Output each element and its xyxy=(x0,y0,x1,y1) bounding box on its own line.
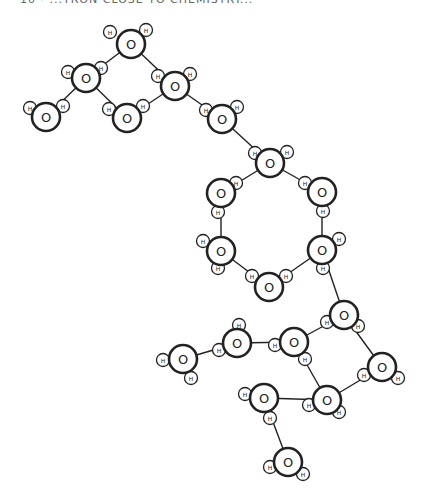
oxygen-label: O xyxy=(126,37,136,52)
oxygen-label: O xyxy=(178,352,188,367)
hydrogen-label: H xyxy=(321,265,326,272)
hydrogen-label: H xyxy=(268,415,273,422)
hydrogen-label: H xyxy=(250,273,255,280)
hydrogen-label: H xyxy=(273,342,278,349)
hydrogen-label: H xyxy=(234,180,239,187)
oxygen-label: O xyxy=(339,308,349,323)
oxygen-label: O xyxy=(322,393,332,408)
oxygen-label: O xyxy=(41,110,51,125)
hydrogen-label: H xyxy=(301,471,306,478)
water-molecule: HHO xyxy=(62,62,108,93)
hydrogen-label: H xyxy=(28,105,33,112)
water-molecule-network-diagram: HHOHHOHHOHHOHHOHHOHHOHHOHHOHHOHHOHHOHHOH… xyxy=(0,0,422,504)
hydrogen-label: H xyxy=(325,319,330,326)
oxygen-label: O xyxy=(217,112,227,127)
hydrogen-label: H xyxy=(188,71,193,78)
hydrogen-label: H xyxy=(66,69,71,76)
water-molecule: HHO xyxy=(152,68,197,101)
oxygen-label: O xyxy=(317,243,327,258)
hydrogen-label: H xyxy=(243,391,248,398)
oxygen-label: O xyxy=(283,455,293,470)
water-molecule: HHO xyxy=(303,386,346,419)
oxygen-label: O xyxy=(170,79,180,94)
water-molecule: HHO xyxy=(24,100,70,132)
hydrogen-label: H xyxy=(156,73,161,80)
hydrogen-label: H xyxy=(253,150,258,157)
hydrogen-label: H xyxy=(307,402,312,409)
oxygen-label: O xyxy=(232,336,242,351)
hydrogen-label: H xyxy=(141,103,146,110)
hydrogen-label: H xyxy=(204,107,209,114)
hydrogen-label: H xyxy=(303,356,308,363)
hydrogen-label: H xyxy=(237,322,242,329)
water-molecule: HHO xyxy=(299,177,337,218)
hydrogen-label: H xyxy=(144,27,149,34)
water-molecule: HHO xyxy=(104,24,153,59)
hydrogen-label: H xyxy=(61,103,66,110)
hydrogen-label: H xyxy=(396,375,401,382)
oxygen-label: O xyxy=(377,360,387,375)
oxygen-label: O xyxy=(216,186,226,201)
hydrogen-label: H xyxy=(108,29,113,36)
water-molecule: HHO xyxy=(358,353,405,385)
water-molecule: HHO xyxy=(321,301,365,333)
oxygen-label: O xyxy=(216,244,226,259)
water-molecule: HHO xyxy=(207,177,243,219)
water-molecule: HHO xyxy=(200,101,244,134)
water-molecule: HHO xyxy=(103,100,150,133)
hydrogen-label: H xyxy=(189,375,194,382)
hydrogen-label: H xyxy=(235,104,240,111)
hydrogen-label: H xyxy=(217,347,222,354)
water-molecule: HHO xyxy=(308,233,346,275)
water-molecule: HHO xyxy=(246,270,293,302)
water-molecule: HHO xyxy=(269,328,312,366)
oxygen-label: O xyxy=(264,280,274,295)
hydrogen-label: H xyxy=(268,464,273,471)
oxygen-label: O xyxy=(259,391,269,406)
oxygen-label: O xyxy=(265,156,275,171)
hydrogen-label: H xyxy=(107,106,112,113)
hydrogen-label: H xyxy=(99,65,104,72)
oxygen-label: O xyxy=(122,111,132,126)
oxygen-label: O xyxy=(289,335,299,350)
hydrogen-label: H xyxy=(161,357,166,364)
water-molecule: HHO xyxy=(239,384,279,425)
water-molecule: HHO xyxy=(157,345,198,385)
hydrogen-label: H xyxy=(303,180,308,187)
hydrogen-label: H xyxy=(201,238,206,245)
water-molecule: HHO xyxy=(213,319,252,358)
water-molecule: HHO xyxy=(197,235,236,275)
hydrogen-label: H xyxy=(337,236,342,243)
water-molecule: HHO xyxy=(264,448,310,481)
hydrogen-label: H xyxy=(284,273,289,280)
hydrogen-label: H xyxy=(216,209,221,216)
oxygen-label: O xyxy=(317,185,327,200)
oxygen-label: O xyxy=(81,71,91,86)
hydrogen-label: H xyxy=(321,208,326,215)
water-molecules: HHOHHOHHOHHOHHOHHOHHOHHOHHOHHOHHOHHOHHOH… xyxy=(24,24,405,481)
hydrogen-label: H xyxy=(285,149,290,156)
hydrogen-label: H xyxy=(362,372,367,379)
